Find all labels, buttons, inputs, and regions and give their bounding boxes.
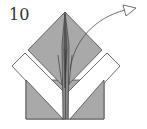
origami-diagram xyxy=(0,0,147,129)
